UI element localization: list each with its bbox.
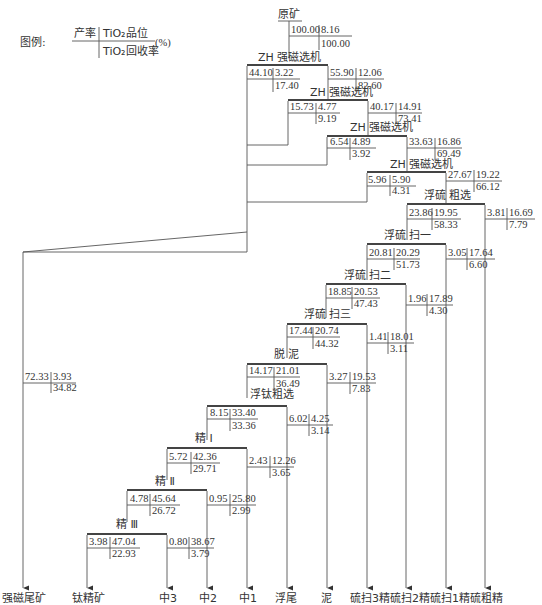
s-scav1-conc-grade: 17.64 [469,247,493,258]
mag3-tail-yield: 6.54 [330,136,349,147]
clean2-tail-yield: 0.95 [209,493,227,504]
op-s-scav1: 浮硫 扫一 [384,228,432,242]
product-s-scav1-conc: 硫扫1精 [430,591,470,605]
ti-rough-conc-recovery: 33.36 [232,420,256,431]
clean2-tail-grade: 25.80 [232,493,256,504]
product-mid3: 中3 [159,592,177,605]
op-deslime: 脱 泥 [274,347,300,361]
clean3-tail-recovery: 3.79 [191,548,209,559]
s-scav1-conc-recovery: 6.60 [469,259,487,270]
clean2-tail-recovery: 2.99 [232,505,250,516]
product-s-scav3-conc: 硫扫3精 [350,591,390,605]
legend-yield-label: 产率 [74,26,96,40]
mag-tail-total-recovery: 34.82 [53,382,77,393]
clean2-conc-recovery: 26.72 [152,505,176,516]
deslime-slime-recovery: 7.83 [352,383,370,394]
deslime-under-yield: 14.17 [249,365,273,376]
op-mag2: ZH 强磁选机 [310,85,373,99]
legend: 图例: 产率 TiO₂品位 TiO₂回收率 (%) [20,26,171,58]
feed-label: 原矿 [278,8,300,21]
s-scav2-conc-grade: 17.89 [429,293,453,304]
mag3-conc-yield: 33.63 [409,136,433,147]
mag1-tail-grade: 3.22 [275,67,293,78]
mag4-conc-grade: 19.22 [476,169,500,180]
mag-tail-total-yield: 72.33 [25,371,49,382]
op-mag4: ZH 强磁选机 [390,157,453,171]
ti-rough-conc-grade: 33.40 [232,407,256,418]
op-ti-rough: 浮钛粗选 [250,387,294,401]
mag-tail-total-grade: 3.93 [53,371,71,382]
mag1-conc-grade: 12.06 [358,67,382,78]
mag3-tail-recovery: 3.92 [352,148,370,159]
mag4-tail-grade: 5.90 [392,174,410,185]
ti-rough-conc-yield: 8.15 [210,407,228,418]
s-rough-conc-yield: 3.81 [487,207,505,218]
legend-recovery-label: TiO₂回收率 [102,44,159,58]
s-scav2-conc-yield: 1.96 [408,293,426,304]
clean1-conc-recovery: 29.71 [193,463,217,474]
product-labels: 强磁尾矿 钛精矿 中3 中2 中1 浮尾 泥 硫扫3精 硫扫2精 硫扫1精 硫粗… [2,591,503,605]
s-scav2-conc-recovery: 4.30 [429,305,447,316]
s-rough-tail-grade: 19.95 [434,207,458,218]
product-slime: 泥 [321,592,332,605]
product-s-rough-conc: 硫粗精 [470,591,503,605]
flowsheet: 图例: 产率 TiO₂品位 TiO₂回收率 (%) 原矿 100.00 8.16… [0,0,542,605]
deslime-slime-grade: 19.53 [352,371,376,382]
op-mag1: ZH 强磁选机 [258,50,321,64]
s-scav1-tail-yield: 20.81 [369,247,393,258]
s-scav3-conc-grade: 18.01 [390,331,414,342]
op-clean2: 精 Ⅱ [155,475,175,488]
feed-grade: 8.16 [321,24,339,35]
ti-rough-tail-yield: 6.02 [289,413,307,424]
mag3-conc-grade: 16.86 [437,136,461,147]
mag2-conc-yield: 40.17 [370,101,394,112]
s-scav2-tail-recovery: 47.43 [354,298,378,309]
op-s-scav2: 浮硫 扫二 [344,268,392,282]
mag4-tail-recovery: 4.31 [392,185,410,196]
op-clean1: 精 Ⅰ [195,432,213,445]
deslime-under-grade: 21.01 [276,365,300,376]
mag1-conc-yield: 55.90 [330,67,354,78]
product-flot-tail: 浮尾 [275,592,297,605]
op-clean3: 精 Ⅲ [116,518,138,531]
legend-grade-label: TiO₂品位 [102,26,148,40]
product-mid2: 中2 [199,592,217,605]
clean3-tail-grade: 38.67 [191,536,215,547]
clean3-conc-grade: 47.04 [112,536,136,547]
feed-yield: 100.00 [291,24,320,35]
s-rough-conc-recovery: 7.79 [509,219,527,230]
mag2-tail-recovery: 9.19 [318,113,336,124]
mag4-conc-recovery: 66.12 [476,181,500,192]
product-s-scav2-conc: 硫扫2精 [390,591,430,605]
s-scav3-tail-recovery: 44.32 [315,338,339,349]
ti-rough-tail-recovery: 3.14 [311,425,330,436]
mag2-tail-yield: 15.73 [290,101,314,112]
clean3-tail-yield: 0.80 [169,536,187,547]
clean1-tail-recovery: 3.65 [272,467,290,478]
mag2-tail-grade: 4.77 [318,101,336,112]
clean3-conc-yield: 3.98 [89,536,107,547]
clean1-conc-yield: 5.72 [169,451,187,462]
s-rough-tail-recovery: 58.33 [434,219,458,230]
mag4-conc-yield: 27.67 [448,169,472,180]
s-scav3-conc-yield: 1.41 [369,331,387,342]
s-scav1-tail-recovery: 51.73 [396,259,420,270]
legend-unit: (%) [155,37,171,49]
product-ti-conc: 钛精矿 [72,591,105,605]
deslime-slime-yield: 3.27 [329,371,347,382]
clean3-conc-recovery: 22.93 [112,548,136,559]
mag4-tail-yield: 5.96 [368,174,386,185]
feed-recovery: 100.00 [321,38,350,49]
clean2-conc-grade: 45.64 [152,493,176,504]
op-mag3: ZH 强磁选机 [350,120,413,134]
legend-prefix: 图例: [20,35,46,49]
s-scav2-tail-grade: 20.53 [354,286,378,297]
s-scav1-conc-yield: 3.05 [448,247,466,258]
s-scav3-tail-grade: 20.74 [315,325,339,336]
clean2-conc-yield: 4.78 [130,493,148,504]
s-scav2-tail-yield: 18.85 [328,286,352,297]
clean1-tail-grade: 12.26 [272,455,296,466]
mag1-tail-recovery: 17.40 [275,80,299,91]
product-mag-tailings: 强磁尾矿 [2,592,46,605]
mag3-tail-grade: 4.89 [352,136,370,147]
